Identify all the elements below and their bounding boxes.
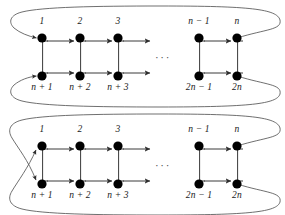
node-2n bbox=[232, 71, 241, 80]
node-2n bbox=[232, 179, 241, 188]
label-node-n: n bbox=[235, 16, 240, 26]
node-2 bbox=[75, 33, 84, 42]
label-node-n-plus-1: n + 1 bbox=[31, 82, 53, 92]
label-node-n-plus-2: n + 2 bbox=[69, 82, 91, 92]
label-node-1: 1 bbox=[40, 124, 45, 134]
label-node-n-minus-1: n − 1 bbox=[188, 124, 210, 134]
node-n-plus-2 bbox=[75, 179, 84, 188]
label-node-3: 3 bbox=[116, 124, 121, 134]
graph-nodes bbox=[37, 141, 241, 188]
node-2 bbox=[75, 141, 84, 150]
diagram-bottom: 1 2 3 n − 1 n n + 1 n + 2 n + 3 2n − 1 2… bbox=[0, 108, 285, 215]
node-n-minus-1 bbox=[194, 141, 203, 150]
node-n-plus-3 bbox=[113, 179, 122, 188]
node-n bbox=[232, 141, 241, 150]
node-3 bbox=[113, 141, 122, 150]
node-n-plus-2 bbox=[75, 71, 84, 80]
node-n-plus-1 bbox=[37, 71, 46, 80]
label-node-1: 1 bbox=[40, 16, 45, 26]
ellipsis: ··· bbox=[155, 51, 171, 63]
graph-nodes bbox=[37, 33, 241, 80]
node-n bbox=[232, 33, 241, 42]
label-node-2: 2 bbox=[78, 124, 83, 134]
label-node-2: 2 bbox=[78, 16, 83, 26]
pair-connectors bbox=[43, 41, 243, 73]
label-node-n-plus-3: n + 3 bbox=[107, 82, 129, 92]
pair-connectors bbox=[43, 149, 243, 181]
wrap-curve-upper bbox=[11, 6, 280, 38]
node-n-plus-3 bbox=[113, 71, 122, 80]
node-2n-minus-1 bbox=[194, 179, 203, 188]
node-3 bbox=[113, 33, 122, 42]
node-1 bbox=[37, 141, 46, 150]
label-node-n-plus-3: n + 3 bbox=[107, 190, 129, 200]
node-1 bbox=[37, 33, 46, 42]
node-n-minus-1 bbox=[194, 33, 203, 42]
figure-canvas: 1 2 3 n − 1 n n + 1 n + 2 n + 3 2n − 1 2… bbox=[0, 0, 285, 215]
label-node-2n-minus-1: 2n − 1 bbox=[186, 82, 213, 92]
label-node-2n-minus-1: 2n − 1 bbox=[186, 190, 213, 200]
ellipsis: ··· bbox=[155, 159, 171, 171]
label-node-n: n bbox=[235, 124, 240, 134]
diagram-top: 1 2 3 n − 1 n n + 1 n + 2 n + 3 2n − 1 2… bbox=[0, 0, 285, 107]
node-n-plus-1 bbox=[37, 179, 46, 188]
label-node-n-plus-2: n + 2 bbox=[69, 190, 91, 200]
label-node-n-minus-1: n − 1 bbox=[188, 16, 210, 26]
label-node-2n: 2n bbox=[232, 82, 242, 92]
label-node-2n: 2n bbox=[232, 190, 242, 200]
node-2n-minus-1 bbox=[194, 71, 203, 80]
label-node-3: 3 bbox=[116, 16, 121, 26]
label-node-n-plus-1: n + 1 bbox=[31, 190, 53, 200]
